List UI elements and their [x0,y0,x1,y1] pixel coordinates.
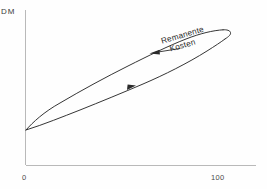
annotation-arrowhead-icon [150,50,160,55]
y-axis-label: DM [1,7,15,16]
x-tick-label-0: 0 [22,173,26,182]
cost-hysteresis-chart: Remanente Kosten DM 0 100 [0,0,267,189]
chart-canvas: Remanente Kosten DM 0 100 [0,0,267,189]
loop-right-tip [223,30,231,39]
expansion-cost-curve [26,39,225,130]
x-tick-label-100: 100 [211,173,224,182]
